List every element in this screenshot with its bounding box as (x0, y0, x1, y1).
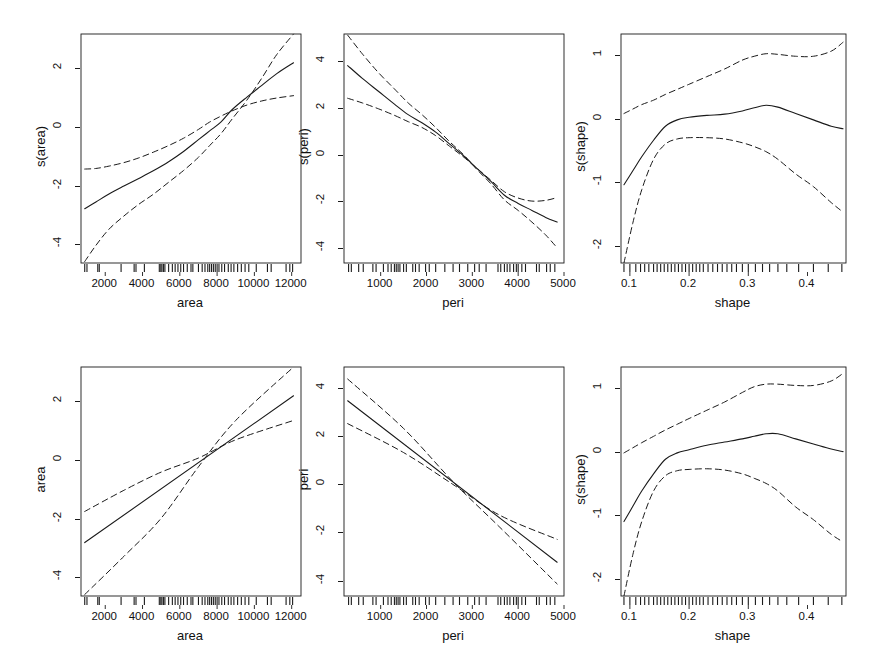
y-axis-title: s(area) (33, 32, 48, 261)
y-tick-label: -4 (314, 233, 326, 259)
rug-marks (349, 597, 555, 605)
x-tick-label: 0.2 (660, 277, 716, 289)
x-tick-label: 0.1 (601, 277, 657, 289)
y-tick-label: -2 (314, 186, 326, 212)
series-upper_ci (85, 420, 294, 511)
y-tick-mark (75, 401, 80, 402)
rug-marks (624, 597, 842, 605)
y-tick-mark (75, 577, 80, 578)
y-tick-label: 4 (314, 373, 326, 399)
x-tick-label: 12000 (263, 277, 319, 289)
y-tick-mark (338, 484, 343, 485)
y-tick-label: -1 (591, 500, 603, 526)
y-axis-title: s(shape) (573, 365, 588, 594)
y-tick-label: -2 (314, 517, 326, 543)
series-lower_ci (624, 469, 843, 596)
x-tick-label: 5000 (535, 277, 591, 289)
series-upper_ci (624, 42, 843, 113)
y-tick-label: -2 (591, 564, 603, 590)
y-tick-mark (615, 579, 620, 580)
y-tick-mark (75, 519, 80, 520)
y-axis-title: peri (296, 365, 311, 594)
y-tick-label: 0 (314, 469, 326, 495)
y-tick-label: 2 (314, 93, 326, 119)
y-tick-label: 2 (51, 386, 63, 412)
chart-panel-panel-s-area-smooth (80, 33, 302, 282)
x-tick-label: 0.3 (719, 277, 775, 289)
rug-marks (85, 264, 293, 272)
y-tick-mark (615, 452, 620, 453)
y-tick-mark (338, 61, 343, 62)
y-tick-mark (615, 388, 620, 389)
y-tick-label: 0 (591, 437, 603, 463)
y-tick-mark (75, 68, 80, 69)
series-fit (348, 401, 557, 563)
y-tick-label: -2 (591, 231, 603, 257)
y-tick-mark (338, 155, 343, 156)
y-tick-mark (75, 244, 80, 245)
y-tick-label: -4 (51, 562, 63, 588)
series-upper_ci (85, 96, 294, 169)
rug-marks (624, 264, 842, 272)
y-tick-label: -2 (51, 504, 63, 530)
x-tick-label: 0.2 (660, 610, 716, 622)
y-tick-mark (338, 201, 343, 202)
x-tick-label: 0.4 (779, 610, 835, 622)
figure-canvas: -4-20220004000600080001000012000areas(ar… (0, 0, 892, 656)
y-tick-label: -2 (51, 171, 63, 197)
y-tick-mark (338, 248, 343, 249)
y-tick-mark (75, 127, 80, 128)
y-tick-label: -4 (51, 229, 63, 255)
y-tick-label: 2 (314, 421, 326, 447)
y-tick-label: 0 (51, 445, 63, 471)
y-tick-mark (615, 55, 620, 56)
x-axis-title: area (80, 295, 300, 310)
y-tick-label: 4 (314, 46, 326, 72)
y-axis-title: s(shape) (573, 32, 588, 261)
x-tick-label: 0.1 (601, 610, 657, 622)
x-axis-title: shape (620, 295, 845, 310)
y-tick-label: 1 (591, 373, 603, 399)
y-tick-label: 2 (51, 53, 63, 79)
series-lower_ci (348, 35, 557, 248)
y-tick-label: 0 (591, 104, 603, 130)
y-tick-mark (615, 515, 620, 516)
rug-marks (85, 597, 293, 605)
y-tick-mark (615, 119, 620, 120)
y-tick-mark (338, 108, 343, 109)
chart-panel-panel-peri-linear (343, 366, 565, 615)
chart-panel-panel-s-shape-smooth-2 (620, 366, 847, 615)
y-axis-title: s(peri) (296, 32, 311, 261)
x-tick-label: 5000 (535, 610, 591, 622)
y-tick-label: 0 (51, 112, 63, 138)
y-tick-label: -1 (591, 167, 603, 193)
x-tick-label: 0.3 (719, 610, 775, 622)
y-axis-title: area (33, 365, 48, 594)
series-fit (624, 433, 843, 521)
y-tick-mark (615, 246, 620, 247)
series-fit (85, 63, 294, 209)
series-fit (624, 105, 843, 185)
series-lower_ci (85, 367, 294, 595)
y-tick-label: 1 (591, 40, 603, 66)
y-tick-label: -4 (314, 566, 326, 592)
series-lower_ci (624, 138, 843, 263)
y-tick-mark (75, 460, 80, 461)
x-tick-label: 12000 (263, 610, 319, 622)
x-axis-title: peri (343, 295, 563, 310)
x-axis-title: shape (620, 628, 845, 643)
y-tick-mark (615, 182, 620, 183)
y-tick-mark (338, 581, 343, 582)
chart-panel-panel-s-shape-smooth (620, 33, 847, 282)
y-tick-label: 0 (314, 140, 326, 166)
y-tick-mark (75, 186, 80, 187)
rug-marks (349, 264, 555, 272)
y-tick-mark (338, 388, 343, 389)
y-tick-mark (338, 436, 343, 437)
x-axis-title: peri (343, 628, 563, 643)
series-fit (85, 396, 294, 543)
chart-panel-panel-s-peri-smooth (343, 33, 565, 282)
x-axis-title: area (80, 628, 300, 643)
x-tick-label: 0.4 (779, 277, 835, 289)
y-tick-mark (338, 532, 343, 533)
